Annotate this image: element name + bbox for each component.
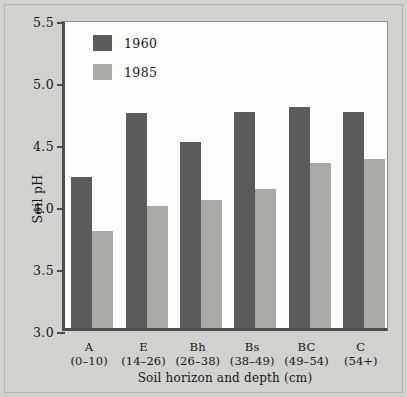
bar-group (342, 22, 386, 328)
x-axis-depth: (49–54) (284, 354, 329, 368)
chart-legend: 1960 1985 (93, 35, 157, 93)
x-axis-category: Bh (175, 340, 220, 354)
x-axis-title: Soil horizon and depth (cm) (62, 371, 388, 385)
bar-1960-Bs (234, 112, 255, 328)
legend-swatch-1960 (93, 35, 112, 51)
y-axis-tick (57, 22, 65, 24)
y-axis-tick-label: 4.0 (33, 201, 54, 216)
bar-1985-A (92, 231, 113, 328)
bar-1985-Bs (255, 189, 276, 328)
bar-group (233, 22, 277, 328)
x-axis-tick-label: Bs(38–49) (230, 340, 275, 368)
y-axis-tick (57, 208, 65, 210)
x-axis-depth: (14–26) (121, 354, 166, 368)
y-axis-tick (57, 270, 65, 272)
y-axis-tick-label: 3.0 (33, 325, 54, 340)
bar-group (179, 22, 223, 328)
bar-1985-BC (310, 163, 331, 328)
x-axis-tick-label: A(0–10) (71, 340, 108, 368)
x-axis-category: Bs (230, 340, 275, 354)
y-axis-tick-label: 5.5 (33, 15, 54, 30)
bar-1960-E (126, 113, 147, 328)
x-axis-tick-label: C(54+) (344, 340, 378, 368)
legend-swatch-1985 (93, 64, 112, 80)
legend-label-1960: 1960 (124, 36, 157, 51)
x-axis-depth: (38–49) (230, 354, 275, 368)
x-axis-category: A (71, 340, 108, 354)
bar-1985-E (147, 206, 168, 328)
y-axis-tick-label: 3.5 (33, 263, 54, 278)
x-axis-depth: (26–38) (175, 354, 220, 368)
x-axis-tick-label: BC(49–54) (284, 340, 329, 368)
bar-1960-C (343, 112, 364, 328)
bar-group (288, 22, 332, 328)
bar-1960-BC (289, 107, 310, 328)
x-axis-tick-label: Bh(26–38) (175, 340, 220, 368)
y-axis-tick-label: 5.0 (33, 77, 54, 92)
legend-item-1985: 1985 (93, 64, 157, 80)
y-axis-tick (57, 146, 65, 148)
y-axis-tick (57, 332, 65, 334)
x-axis-depth: (54+) (344, 354, 378, 368)
chart-figure: Soil pH 3.03.54.04.55.05.5 1960 1985 Soi… (0, 0, 407, 397)
x-axis-depth: (0–10) (71, 354, 108, 368)
plot-area: 3.03.54.04.55.05.5 1960 1985 (62, 21, 388, 331)
x-axis-category: C (344, 340, 378, 354)
bar-1960-Bh (180, 142, 201, 328)
bar-1960-A (71, 177, 92, 328)
y-axis-tick-label: 4.5 (33, 139, 54, 154)
y-axis-title: Soil pH (30, 174, 45, 223)
x-axis-category: BC (284, 340, 329, 354)
legend-item-1960: 1960 (93, 35, 157, 51)
x-axis-category: E (121, 340, 166, 354)
y-axis-tick (57, 84, 65, 86)
x-axis-tick-label: E(14–26) (121, 340, 166, 368)
bar-1985-C (364, 159, 385, 328)
bar-1985-Bh (201, 200, 222, 328)
legend-label-1985: 1985 (124, 65, 157, 80)
